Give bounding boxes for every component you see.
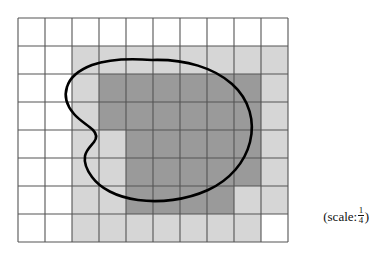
inner-cell: [153, 74, 180, 102]
inner-cell: [234, 74, 261, 102]
grid-area-figure: (scale:14): [0, 0, 375, 275]
inner-cell: [126, 158, 153, 186]
inner-cell: [180, 158, 207, 186]
outer-cell: [234, 46, 261, 74]
inner-cell: [126, 102, 153, 130]
outer-cell: [99, 130, 126, 158]
outer-cell: [261, 130, 288, 158]
scale-suffix: ): [365, 209, 369, 224]
inner-cell: [99, 74, 126, 102]
outer-cell: [261, 74, 288, 102]
outer-cell: [153, 214, 180, 242]
outer-cell: [261, 46, 288, 74]
outer-cell: [261, 158, 288, 186]
outer-cell: [180, 46, 207, 74]
outer-cell: [234, 186, 261, 214]
inner-cell: [153, 158, 180, 186]
inner-cell: [180, 74, 207, 102]
inner-cell: [180, 186, 207, 214]
inner-cell: [126, 74, 153, 102]
figure-svg: [0, 0, 375, 275]
outer-cell: [180, 214, 207, 242]
outer-cell: [207, 214, 234, 242]
scale-prefix: (scale:: [323, 209, 357, 224]
inner-cell: [207, 186, 234, 214]
outer-cell: [261, 186, 288, 214]
outer-cell: [72, 74, 99, 102]
scale-label: (scale:14): [323, 206, 369, 226]
inner-cell: [153, 130, 180, 158]
scale-denominator: 4: [358, 216, 365, 225]
inner-cell: [207, 102, 234, 130]
outer-cell: [261, 102, 288, 130]
inner-cell: [126, 130, 153, 158]
inner-cell: [99, 102, 126, 130]
inner-cell: [180, 130, 207, 158]
scale-fraction: 14: [358, 206, 365, 226]
outer-cell: [72, 214, 99, 242]
inner-cell: [207, 74, 234, 102]
outer-cell: [72, 186, 99, 214]
outer-cell: [99, 186, 126, 214]
inner-cell: [234, 130, 261, 158]
outer-cell: [99, 158, 126, 186]
inner-cell: [153, 102, 180, 130]
outer-cell: [234, 214, 261, 242]
inner-cell: [180, 102, 207, 130]
outer-cell: [126, 214, 153, 242]
outer-cell: [72, 46, 99, 74]
outer-cell: [99, 214, 126, 242]
inner-cell: [234, 158, 261, 186]
inner-cell: [207, 130, 234, 158]
